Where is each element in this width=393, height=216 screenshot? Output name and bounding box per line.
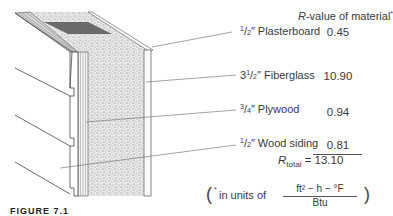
- layer-label-fiberglass: 31/2″ Fiberglass: [240, 69, 315, 81]
- units-denominator: Btu: [281, 197, 359, 208]
- inch-mark: ″: [251, 25, 255, 37]
- thickness-num: 1: [246, 69, 250, 76]
- inch-mark: ″: [251, 103, 255, 115]
- r-total-row: Rtotal = 13.10: [278, 154, 343, 166]
- equals-sign: =: [305, 154, 312, 166]
- figure-caption: FIGURE 7.1: [10, 206, 69, 216]
- r-value-fiberglass: 10.90: [314, 70, 362, 82]
- close-paren: ): [364, 184, 370, 205]
- r-value-plywood: 0.94: [314, 106, 362, 118]
- thickness-num: 1: [240, 25, 244, 32]
- r-value-header-text: -value of material: [306, 10, 390, 22]
- layer-label-plywood: 3/4″ Plywood: [240, 103, 299, 115]
- thickness-num: 1: [240, 137, 244, 144]
- units-text: in units of: [219, 189, 266, 201]
- r-value-wood-siding: 0.81: [314, 139, 362, 151]
- thickness-num: 3: [240, 103, 244, 110]
- layer-label-plasterboard: 1/2″ Plasterboard: [240, 25, 320, 37]
- r-symbol: R: [298, 10, 306, 22]
- layer-name: Plywood: [258, 103, 300, 115]
- fiberglass-layer: [88, 50, 144, 196]
- layer-name: Fiberglass: [264, 69, 315, 81]
- wood-siding-layer: [70, 52, 78, 196]
- inch-mark: ″: [251, 137, 255, 149]
- inch-mark: ″: [257, 69, 261, 81]
- open-paren: (: [206, 184, 212, 205]
- layer-name: Wood siding: [258, 137, 318, 149]
- asterisk: *: [214, 186, 217, 193]
- r-value-plasterboard: 0.45: [314, 26, 362, 38]
- layer-name: Plasterboard: [258, 25, 320, 37]
- layer-label-wood-siding: 1/2″ Wood siding: [240, 137, 318, 149]
- r-total-value: 13.10: [315, 154, 344, 166]
- total-subscript: total: [286, 160, 301, 169]
- units-note: ( * in units of ft² − h − °F Btu ): [206, 184, 376, 214]
- r-value-header: R-value of material*: [298, 10, 393, 22]
- plasterboard-layer: [144, 50, 151, 196]
- units-numerator: ft² − h − °F: [281, 183, 359, 194]
